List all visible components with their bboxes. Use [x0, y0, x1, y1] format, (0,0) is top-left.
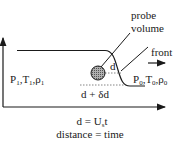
d-plus-delta-label: d + δd: [81, 88, 109, 100]
probe-label: probe: [131, 9, 156, 21]
volume-label: volume: [131, 22, 164, 34]
front-label: front: [151, 46, 172, 58]
caption-label: distance = time: [56, 128, 123, 140]
probe-volume-circle: [91, 66, 105, 80]
front-leader-line: [121, 47, 148, 71]
right-state-label: P0,T0,ρ0: [133, 73, 168, 87]
shock-front-diagram: probe volume front P1,T1,ρ1 P0,T0,ρ0 d d…: [0, 0, 184, 146]
d-label: d: [110, 60, 116, 72]
equation-label: d = Ust: [77, 115, 108, 129]
left-state-label: P1,T1,ρ1: [10, 73, 45, 87]
